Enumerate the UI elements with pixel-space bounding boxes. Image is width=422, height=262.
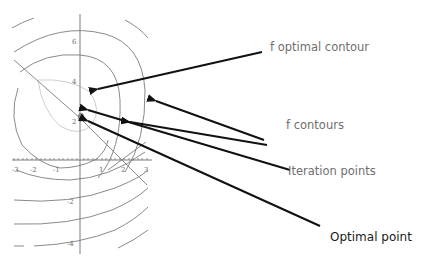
optimal-point-marker (78, 113, 84, 121)
y-tick-4: 4 (72, 78, 77, 86)
contour-lower-2 (14, 170, 148, 201)
arrow-optimal-contour (98, 52, 262, 89)
y-tick-6: 6 (72, 38, 77, 46)
search-line-3 (108, 142, 146, 170)
contour-diagram: -3 -2 -1 1 2 3 6 4 2 -2 -4 f optimal con… (0, 0, 422, 262)
y-tick-labels: 6 4 2 -2 -4 (67, 38, 77, 248)
search-line-2 (80, 118, 147, 185)
label-f-contours: f contours (286, 118, 344, 132)
x-tick-neg2: -2 (30, 166, 37, 174)
label-optimal-contour: f optimal contour (270, 40, 369, 54)
y-tick-neg4: -4 (67, 240, 74, 248)
contour-lower-3 (14, 188, 148, 224)
label-optimal-point: Optimal point (330, 230, 412, 244)
x-tick-neg1: -1 (53, 166, 60, 174)
label-iteration-points: Iteration points (288, 164, 376, 178)
annotation-arrows (88, 52, 320, 226)
x-tick-3: 3 (144, 166, 148, 174)
y-tick-2: 2 (72, 118, 76, 126)
y-tick-neg2: -2 (67, 198, 74, 206)
x-tick-1: 1 (99, 166, 103, 174)
contour-2 (20, 55, 120, 178)
arrow-iteration-point (88, 110, 290, 170)
optimal-contour (38, 80, 97, 132)
contour-outer-fragment-left (12, 18, 34, 28)
contour-outer-fragment-right (125, 20, 148, 38)
x-tick-neg3: -3 (12, 166, 19, 174)
contour-lower-4b (34, 207, 148, 246)
contour-lower-5 (118, 230, 148, 248)
x-tick-2: 2 (121, 166, 125, 174)
